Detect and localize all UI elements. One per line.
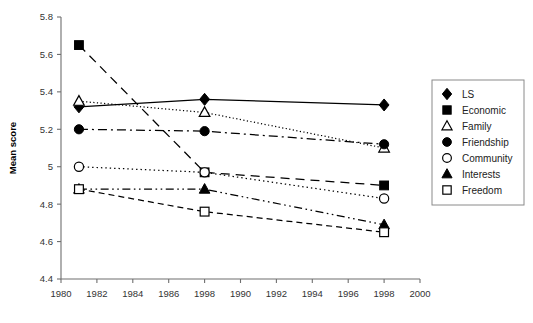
series-line — [79, 99, 384, 106]
y-tick-label: 4.8 — [40, 199, 53, 210]
data-point-marker — [380, 228, 389, 237]
legend-item-label: Friendship — [462, 137, 509, 148]
data-point-marker — [200, 93, 210, 105]
y-tick-label: 4.6 — [40, 236, 53, 247]
series-line — [79, 45, 384, 185]
y-tick-label: 5.8 — [40, 11, 53, 22]
axes — [61, 17, 420, 279]
data-point-marker — [380, 194, 389, 203]
legend-item-label: Economic — [462, 105, 506, 116]
y-axis-title: Mean score — [7, 122, 18, 174]
x-tick-label: 1990 — [230, 288, 251, 299]
series-line — [79, 189, 384, 232]
x-tick-label: 1998 — [194, 288, 215, 299]
x-tick-label: 1980 — [50, 288, 71, 299]
series-friendship — [74, 125, 388, 149]
data-point-marker — [200, 168, 209, 177]
data-point-marker — [74, 162, 83, 171]
data-point-marker — [379, 99, 389, 111]
axis-lines — [61, 17, 420, 279]
x-tick-label: 1994 — [302, 288, 323, 299]
legend-item-label: Interests — [462, 169, 500, 180]
y-tick-label: 4.4 — [40, 273, 53, 284]
legend-item[interactable]: Freedom — [443, 185, 502, 196]
plot-series-group — [74, 41, 390, 237]
data-point-marker — [199, 184, 210, 194]
series-ls — [74, 93, 389, 112]
data-point-marker — [74, 125, 83, 134]
data-point-marker — [443, 154, 452, 163]
data-point-marker — [75, 185, 84, 194]
legend-item-label: Freedom — [462, 185, 502, 196]
data-point-marker — [200, 207, 209, 216]
x-tick-label: 2000 — [409, 288, 430, 299]
line-chart: 4.44.64.855.25.45.65.8198019821984198619… — [0, 0, 533, 323]
y-tick-label: 5.6 — [40, 49, 53, 60]
series-economic — [75, 41, 389, 190]
chart-container: 4.44.64.855.25.45.65.8198019821984198619… — [0, 0, 533, 323]
legend-item-label: Community — [462, 153, 513, 164]
data-point-marker — [199, 107, 210, 117]
data-point-marker — [74, 96, 85, 106]
series-line — [79, 167, 384, 199]
x-tick-label: 1998 — [374, 288, 395, 299]
data-point-marker — [380, 140, 389, 149]
legend: LSEconomicFamilyFriendshipCommunityInter… — [432, 80, 524, 205]
x-tick-label: 1984 — [122, 288, 143, 299]
series-line — [79, 129, 384, 144]
data-point-marker — [380, 181, 389, 190]
series-line — [79, 189, 384, 225]
series-interests — [74, 184, 390, 229]
x-tick-label: 1992 — [266, 288, 287, 299]
x-tick-label: 1986 — [158, 288, 179, 299]
data-point-marker — [200, 127, 209, 136]
data-point-marker — [443, 186, 451, 194]
legend-item-label: Family — [462, 121, 491, 132]
x-axis-ticks: 1980198219841986199819901992199419961998… — [50, 279, 430, 299]
data-point-marker — [75, 41, 84, 50]
y-tick-label: 5.2 — [40, 124, 53, 135]
x-tick-label: 1996 — [338, 288, 359, 299]
y-axis-ticks: 4.44.64.855.25.45.65.8 — [40, 11, 61, 284]
y-tick-label: 5 — [48, 161, 53, 172]
data-point-marker — [443, 106, 451, 114]
series-line — [79, 101, 384, 148]
legend-item-label: LS — [462, 89, 475, 100]
x-tick-label: 1982 — [86, 288, 107, 299]
data-point-marker — [443, 138, 452, 147]
y-tick-label: 5.4 — [40, 86, 53, 97]
